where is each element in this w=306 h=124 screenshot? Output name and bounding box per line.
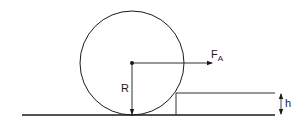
- wheel-step-diagram: FA R h: [0, 0, 306, 124]
- height-label: h: [285, 97, 291, 109]
- force-label: FA: [211, 48, 224, 63]
- radius-label: R: [121, 82, 129, 94]
